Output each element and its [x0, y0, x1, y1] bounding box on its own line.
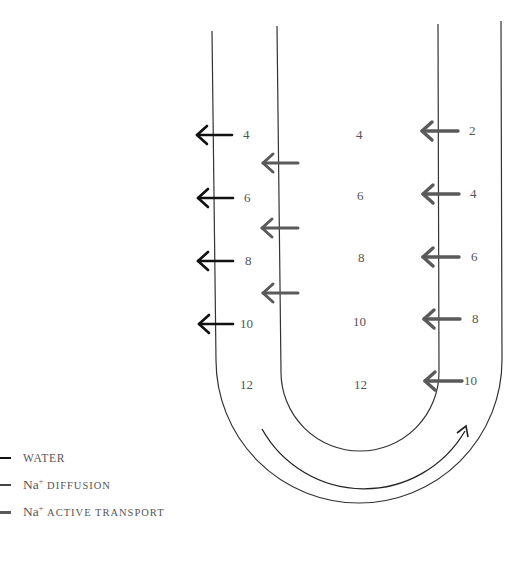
water-arrow-icon — [198, 252, 233, 270]
osmolarity-label: 8 — [472, 311, 479, 326]
interstitium-labels: 4 6 8 10 12 — [353, 127, 367, 392]
osmolarity-label: 4 — [470, 186, 477, 201]
water-arrow-icon — [197, 126, 232, 144]
osmolarity-label: 6 — [357, 188, 364, 203]
osmolarity-label: 8 — [358, 250, 365, 265]
legend-label: Na+DIFFUSION — [23, 477, 111, 493]
osmolarity-label: 10 — [464, 373, 477, 388]
water-arrow-icon — [198, 189, 233, 207]
na-diffusion-arrow-icon — [263, 154, 298, 172]
tube-walls — [212, 21, 502, 503]
legend-text: DIFFUSION — [47, 480, 111, 491]
legend-item-na-diffusion: Na+DIFFUSION — [0, 477, 111, 493]
osmolarity-label: 6 — [471, 249, 478, 264]
na-active-transport-arrow-icon — [425, 372, 462, 390]
legend-sup: + — [39, 504, 44, 513]
na-active-transport-arrows — [422, 122, 462, 390]
osmolarity-label: 2 — [469, 123, 476, 138]
legend-prefix: Na — [23, 504, 39, 519]
legend-prefix: Na — [23, 477, 39, 492]
legend-label: Na+ACTIVE TRANSPORT — [23, 504, 165, 520]
na-active-transport-arrow-icon — [424, 310, 460, 328]
na-active-transport-arrow-icon — [423, 248, 459, 266]
osmolarity-label: 12 — [354, 377, 367, 392]
legend-item-water: WATER — [0, 450, 65, 466]
osmolarity-label: 4 — [243, 127, 250, 142]
water-swatch-icon — [0, 457, 11, 459]
osmolarity-label: 8 — [245, 253, 252, 268]
na-active-transport-arrow-icon — [423, 185, 459, 203]
ascending-limb-labels: 2 4 6 8 10 — [464, 123, 479, 388]
osmolarity-label: 6 — [244, 190, 251, 205]
legend-label: WATER — [23, 452, 65, 464]
na-active-transport-arrow-icon — [422, 122, 458, 140]
osmolarity-label: 10 — [353, 314, 366, 329]
legend-text: ACTIVE TRANSPORT — [47, 507, 165, 518]
descending-limb-outer-wall — [212, 21, 502, 503]
na-diffusion-swatch-icon — [0, 484, 11, 486]
na-active-transport-swatch-icon — [0, 511, 11, 514]
osmolarity-label: 10 — [240, 316, 253, 331]
legend-item-na-active-transport: Na+ACTIVE TRANSPORT — [0, 504, 165, 520]
legend-sup: + — [39, 477, 44, 486]
osmolarity-label: 4 — [356, 127, 363, 142]
osmolarity-label: 12 — [240, 377, 253, 392]
descending-limb-labels: 4 6 8 10 12 — [240, 127, 253, 392]
